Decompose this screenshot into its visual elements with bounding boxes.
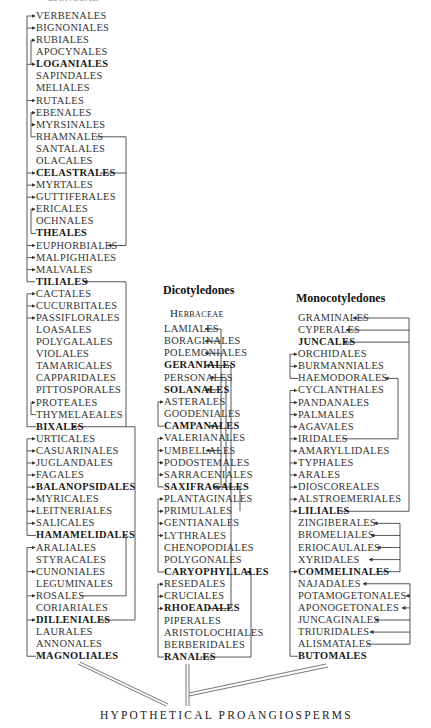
order-label-butomales: BUTOMALES xyxy=(298,650,367,662)
order-label-cyperales: CYPERALES xyxy=(298,324,360,336)
order-label-cunoniales: CUNONIALES xyxy=(36,566,105,578)
order-label-bromeliales: BROMELIALES xyxy=(298,529,374,541)
order-label-umbellales: UMBELLALES xyxy=(164,445,236,457)
order-label-piperales: PIPERALES xyxy=(164,615,221,627)
order-label-polygalales: POLYGALALES xyxy=(36,336,113,348)
order-label-amaryllidales: AMARYLLIDALES xyxy=(298,445,390,457)
order-label-lamiales: LAMIALES xyxy=(164,323,219,335)
dicotyledones-heading: Dicotyledones xyxy=(163,283,234,298)
top-partial-heading: LIGNOSAE xyxy=(48,0,98,3)
order-label-apocynales: APOCYNALES xyxy=(36,46,108,58)
order-label-myrsinales: MYRSINALES xyxy=(36,119,105,131)
order-label-liliales: LILIALES xyxy=(298,505,350,517)
order-label-balanopsidales: BALANOPSIDALES xyxy=(36,481,135,493)
order-label-haemodorales: HAEMODORALES xyxy=(298,372,388,384)
order-label-laurales: LAURALES xyxy=(36,626,93,638)
order-label-palmales: PALMALES xyxy=(298,409,354,421)
order-label-juncaginales: JUNCAGINALES xyxy=(298,614,380,626)
order-label-malpighiales: MALPIGHIALES xyxy=(36,252,116,264)
order-label-triuridales: TRIURIDALES xyxy=(298,626,369,638)
order-label-plantaginales: PLANTAGINALES xyxy=(164,493,253,505)
order-label-salicales: SALICALES xyxy=(36,517,95,529)
order-label-chenopodiales: CHENOPODIALES xyxy=(164,542,254,554)
order-label-aristolochiales: ARISTOLOCHIALES xyxy=(164,627,264,639)
order-label-myricales: MYRICALES xyxy=(36,493,99,505)
order-label-graminales: GRAMINALES xyxy=(298,312,369,324)
order-label-agavales: AGAVALES xyxy=(298,421,354,433)
order-label-resedales: RESEDALES xyxy=(164,578,226,590)
order-label-cyclanthales: CYCLANTHALES xyxy=(298,384,384,396)
order-label-cactales: CACTALES xyxy=(36,288,91,300)
order-label-rhoeadales: RHOEADALES xyxy=(164,602,240,614)
order-label-tiliales: TILIALES xyxy=(36,276,88,288)
order-label-theales: THEALES xyxy=(36,227,87,239)
order-label-cruciales: CRUCIALES xyxy=(164,590,224,602)
order-label-cucurbitales: CUCURBITALES xyxy=(36,300,117,312)
order-label-pittosporales: PITTOSPORALES xyxy=(36,384,121,396)
order-label-berberidales: BERBERIDALES xyxy=(164,639,245,651)
root-convergence-lines xyxy=(78,662,328,706)
order-label-juncales: JUNCALES xyxy=(298,336,355,348)
order-label-celastrales: CELASTRALES xyxy=(36,167,116,179)
herbaceae-subheading: Herbaceae xyxy=(170,307,224,319)
order-label-campanales: CAMPANALES xyxy=(164,420,240,432)
order-label-potamogetonales: POTAMOGETONALES xyxy=(298,590,407,602)
order-label-rhamnales: RHAMNALES xyxy=(36,131,103,143)
order-label-ochnales: OCHNALES xyxy=(36,215,94,227)
order-label-dioscoreales: DIOSCOREALES xyxy=(298,481,380,493)
order-label-alismatales: ALISMATALES xyxy=(298,638,371,650)
order-label-najadales: NAJADALES xyxy=(298,578,361,590)
order-label-lythrales: LYTHRALES xyxy=(164,530,226,542)
order-label-hamamelidales: HAMAMELIDALES xyxy=(36,529,135,541)
order-label-aponogetonales: APONOGETONALES xyxy=(298,602,399,614)
order-label-leguminales: LEGUMINALES xyxy=(36,578,113,590)
order-label-gentianales: GENTIANALES xyxy=(164,517,239,529)
order-label-araliales: ARALIALES xyxy=(36,542,96,554)
order-label-annonales: ANNONALES xyxy=(36,638,102,650)
order-label-saxifragales: SAXIFRAGALES xyxy=(164,481,249,493)
order-label-polygonales: POLYGONALES xyxy=(164,554,242,566)
order-label-zingiberales: ZINGIBERALES xyxy=(298,517,376,529)
order-label-rosales: ROSALES xyxy=(36,590,84,602)
order-label-fagales: FAGALES xyxy=(36,469,84,481)
order-label-goodeniales: GOODENIALES xyxy=(164,408,241,420)
order-label-podostemales: PODOSTEMALES xyxy=(164,457,250,469)
order-label-dilleniales: DILLENIALES xyxy=(36,614,110,626)
order-label-magnoliales: MAGNOLIALES xyxy=(36,650,118,662)
order-label-proteales: PROTEALES xyxy=(36,397,98,409)
order-label-typhales: TYPHALES xyxy=(298,457,354,469)
order-label-rubiales: RUBIALES xyxy=(36,34,89,46)
order-label-casuarinales: CASUARINALES xyxy=(36,445,119,457)
order-label-asterales: ASTERALES xyxy=(164,396,226,408)
order-label-urticales: URTICALES xyxy=(36,433,95,445)
order-label-personales: PERSONALES xyxy=(164,372,233,384)
order-label-rutales: RUTALES xyxy=(36,95,84,107)
order-label-thymelaeales: THYMELAEALES xyxy=(36,409,123,421)
order-label-meliales: MELIALES xyxy=(36,82,90,94)
order-label-arales: ARALES xyxy=(298,469,340,481)
order-label-ranales: RANALES xyxy=(164,651,216,663)
order-label-sapindales: SAPINDALES xyxy=(36,70,103,82)
order-label-ebenales: EBENALES xyxy=(36,107,92,119)
order-label-loasales: LOASALES xyxy=(36,324,92,336)
order-label-xyridales: XYRIDALES xyxy=(298,554,360,566)
order-label-olacales: OLACALES xyxy=(36,155,93,167)
order-label-styracales: STYRACALES xyxy=(36,554,106,566)
order-label-pandanales: PANDANALES xyxy=(298,397,369,409)
root-label-hypothetical-proangiosperms: HYPOTHETICAL PROANGIOSPERMS xyxy=(100,709,353,721)
order-label-malvales: MALVALES xyxy=(36,264,93,276)
order-label-santalales: SANTALALES xyxy=(36,143,105,155)
order-label-myrtales: MYRTALES xyxy=(36,179,93,191)
order-label-geraniales: GERANIALES xyxy=(164,359,236,371)
order-label-guttiferales: GUTTIFERALES xyxy=(36,191,116,203)
order-label-iridales: IRIDALES xyxy=(298,433,348,445)
monocotyledones-heading: Monocotyledones xyxy=(296,291,385,306)
order-label-leitneriales: LEITNERIALES xyxy=(36,505,112,517)
order-label-eriocaulales: ERIOCAULALES xyxy=(298,542,380,554)
order-label-bignoniales: BIGNONIALES xyxy=(36,22,109,34)
order-label-commelinales: COMMELINALES xyxy=(298,566,389,578)
order-label-passiflorales: PASSIFLORALES xyxy=(36,312,120,324)
order-label-sarraceniales: SARRACENIALES xyxy=(164,469,253,481)
order-label-capparidales: CAPPARIDALES xyxy=(36,372,116,384)
order-label-boraginales: BORAGINALES xyxy=(164,335,241,347)
